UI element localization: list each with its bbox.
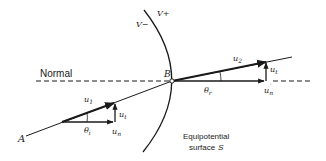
- surface-label-line1: Equipotential: [183, 132, 229, 141]
- normal-label: Normal: [40, 68, 72, 79]
- ut-left-label: ut: [119, 110, 127, 120]
- refraction-diagram: Normal A B V− V+ u1 ut un θi u2 ut un′ θ…: [0, 0, 326, 161]
- v-plus-label: V+: [157, 9, 169, 18]
- theta-r-arc: [220, 72, 221, 81]
- un-prime-label: un′: [264, 82, 273, 96]
- u1-label: u1: [84, 95, 93, 105]
- u2-vector: [172, 62, 266, 81]
- ut-right-label: ut: [270, 65, 278, 75]
- theta-i-label: θi: [84, 126, 91, 136]
- surface-label-line2: surfaceS: [189, 143, 224, 152]
- point-b-label: B: [163, 69, 171, 79]
- u2-label: u2: [233, 54, 242, 64]
- point-a-label: A: [17, 133, 25, 144]
- point-b-marker: [170, 79, 174, 83]
- theta-r-label: θr: [204, 86, 213, 96]
- v-minus-label: V−: [136, 20, 148, 29]
- u1-vector: [62, 103, 114, 122]
- un-label: un: [112, 127, 121, 137]
